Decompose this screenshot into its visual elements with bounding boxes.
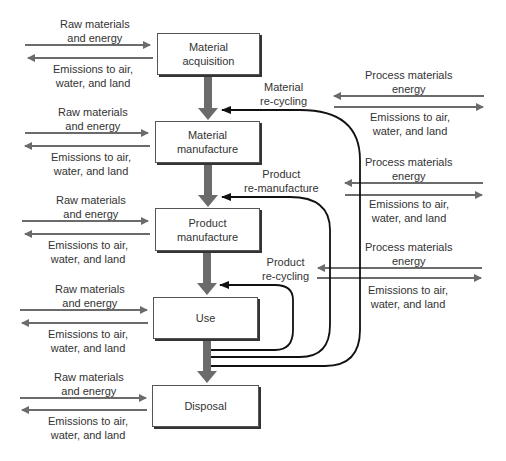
left-output-label-4: Emissions to air,water, and land	[48, 327, 128, 355]
stage-label: Disposal	[184, 399, 226, 413]
left-input-label-1: Raw materialsand energy	[60, 17, 130, 45]
loop-label-product-remanufacture: Productre-manufacture	[244, 167, 319, 195]
stage-label-line1: Material	[189, 41, 228, 53]
left-input-label-2: Raw materialsand energy	[58, 105, 128, 133]
loop-label-product-recycling: Productre-cycling	[262, 255, 309, 283]
right-output-label-2: Emissions to air,water, and land	[369, 197, 449, 225]
right-input-label-2: Process materialsenergy	[365, 155, 452, 183]
left-input-label-3: Raw materialsand energy	[56, 193, 126, 221]
stage-use: Use	[153, 297, 258, 339]
stage-label-line1: Material	[188, 129, 227, 141]
left-input-label-4: Raw materialsand energy	[55, 282, 125, 310]
stage-label: Use	[196, 311, 216, 325]
left-output-label-3: Emissions to air,water, and land	[48, 238, 128, 266]
right-input-label-1: Process materialsenergy	[365, 68, 452, 96]
stage-label-line2: manufacture	[177, 143, 238, 155]
right-output-label-1: Emissions to air,water, and land	[370, 110, 450, 138]
loop-label-material-recycling: Materialre-cycling	[260, 80, 307, 108]
left-output-label-2: Emissions to air,water, and land	[51, 150, 131, 178]
stage-label-line1: Product	[189, 217, 227, 229]
left-output-label-5: Emissions to air,water, and land	[48, 414, 128, 442]
left-input-label-5: Raw materialsand energy	[54, 370, 124, 398]
stage-disposal: Disposal	[152, 385, 259, 427]
right-output-label-3: Emissions to air,water, and land	[368, 283, 448, 311]
stage-product-manufacture: Productmanufacture	[155, 208, 260, 251]
stage-label-line2: manufacture	[177, 231, 238, 243]
right-input-label-3: Process materialsenergy	[365, 240, 452, 268]
stage-label-line2: acquisition	[183, 55, 235, 67]
stage-material-acquisition: Materialacquisition	[157, 33, 260, 75]
stage-material-manufacture: Materialmanufacture	[155, 121, 260, 163]
left-output-label-1: Emissions to air,water, and land	[53, 62, 133, 90]
